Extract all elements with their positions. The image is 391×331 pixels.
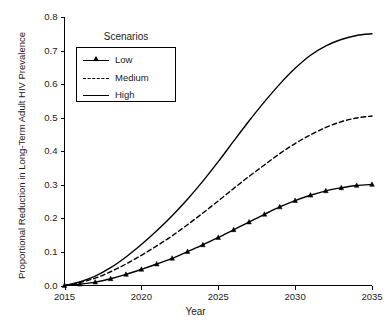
chart-figure: Proportional Reduction in Long-Term Adul… xyxy=(0,0,391,331)
x-axis-tick-label: 2035 xyxy=(352,291,391,302)
y-axis-label: Proportional Reduction in Long-Term Adul… xyxy=(16,31,27,281)
y-axis-tick-label: 0.7 xyxy=(30,45,58,56)
y-axis-tick-label: 0.3 xyxy=(30,179,58,190)
chart-background xyxy=(0,0,391,331)
y-axis-tick-label: 0.0 xyxy=(30,280,58,291)
y-axis-tick-label: 0.5 xyxy=(30,112,58,123)
legend-marker-low xyxy=(93,56,99,61)
y-axis-tick-label: 0.2 xyxy=(30,212,58,223)
x-axis-tick-label: 2015 xyxy=(45,291,85,302)
x-axis-tick-label: 2025 xyxy=(198,291,238,302)
y-axis-tick-label: 0.6 xyxy=(30,78,58,89)
y-axis-tick-label: 0.1 xyxy=(30,246,58,257)
x-axis-tick-label: 2020 xyxy=(121,291,161,302)
chart-plot-area xyxy=(0,0,391,331)
legend-label-high: High xyxy=(115,89,135,100)
legend-title: Scenarios xyxy=(80,31,172,42)
y-axis-tick-label: 0.4 xyxy=(30,145,58,156)
y-axis-tick-label: 0.8 xyxy=(30,11,58,22)
legend-label-medium: Medium xyxy=(115,72,149,83)
legend-swatch-medium xyxy=(83,78,109,79)
x-axis-label: Year xyxy=(0,306,391,317)
legend-swatch-high xyxy=(83,95,109,96)
legend-label-low: Low xyxy=(115,54,132,65)
x-axis-tick-label: 2030 xyxy=(275,291,315,302)
